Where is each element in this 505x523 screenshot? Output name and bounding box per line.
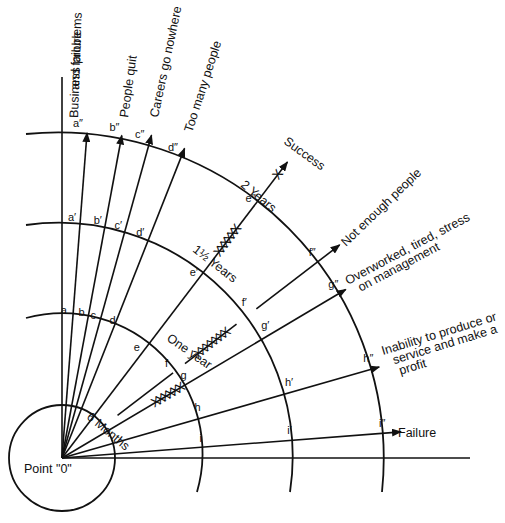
intersection-a-ring-1: a xyxy=(61,304,68,316)
ray-c xyxy=(62,135,152,458)
intersection-b-ring-2: b′ xyxy=(94,214,102,226)
intersection-f-ring-3: f″ xyxy=(309,246,316,258)
intersection-d-ring-2: d′ xyxy=(136,226,144,238)
intersection-e-ring-2: e′ xyxy=(190,266,198,278)
intersection-a-ring-2: a′ xyxy=(68,211,76,223)
intersection-i-ring-2: i′ xyxy=(287,424,292,436)
intersection-c-ring-1: c xyxy=(90,309,96,321)
intersection-d-ring-3: d″ xyxy=(168,141,178,153)
intersection-h-ring-3: h″ xyxy=(363,352,373,364)
intersection-i-ring-1: i xyxy=(200,432,202,444)
intersection-e-ring-1: e xyxy=(134,341,140,353)
cross-marks-e-one-and-half-years: XXXXXX xyxy=(210,221,245,260)
ring-label-two-years: 2 Years xyxy=(238,178,279,216)
cross-marks-f-one-year: XXXXXXX xyxy=(190,323,233,361)
origin-label: Point "0" xyxy=(24,462,72,476)
intersection-h-ring-1: h xyxy=(195,401,201,413)
intersection-g-ring-1: g xyxy=(180,369,186,381)
outcome-label-b: People quit xyxy=(117,54,140,118)
intersection-h-ring-2: h′ xyxy=(285,376,293,388)
outcome-label-d: Too many people xyxy=(182,39,225,134)
cross-marks-g-six-months: XXXXXX xyxy=(148,378,188,410)
outcome-label-e: Success xyxy=(281,134,327,173)
intersection-i-ring-3: i″ xyxy=(379,417,385,429)
growth-path-diagram: Point "0" Business problemsand failureaa… xyxy=(0,0,505,523)
intersection-f-ring-2: f′ xyxy=(242,296,247,308)
ray-f-segment-2 xyxy=(256,245,339,309)
outcome-label-a: and failure xyxy=(68,31,84,90)
intersection-g-ring-2: g′ xyxy=(261,319,269,331)
intersection-c-ring-2: c′ xyxy=(115,219,123,231)
outcome-label-f: Not enough people xyxy=(338,166,424,249)
intersection-c-ring-3: c″ xyxy=(135,128,145,140)
intersection-b-ring-3: b″ xyxy=(109,121,119,133)
intersection-b-ring-1: b xyxy=(79,306,85,318)
intersection-g-ring-3: g″ xyxy=(328,278,338,290)
outcome-label-i: Failure xyxy=(398,426,436,440)
outcome-label-c: Careers go nowhere xyxy=(147,5,184,119)
intersection-a-ring-3: a″ xyxy=(73,117,83,129)
cross-mark-e-two-years: X xyxy=(269,166,286,182)
ray-h xyxy=(62,367,379,458)
intersection-d-ring-1: d xyxy=(110,314,116,326)
ring-label-six-months: 6 Months xyxy=(84,410,132,454)
